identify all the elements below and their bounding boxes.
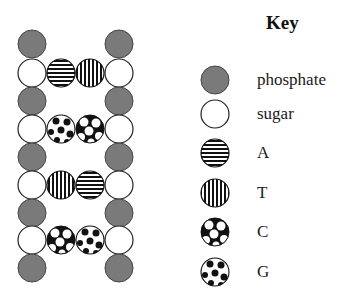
dna-row-7 [18,199,133,227]
phosphate-left-icon [18,199,46,227]
phosphate-right-icon [105,87,133,115]
sugar-left-icon [18,226,46,254]
sugar-right-icon [105,115,133,143]
sugar-left-icon [18,59,46,87]
key-sugar-icon [201,100,229,128]
sugar-right-icon [105,59,133,87]
base-cytosine-icon [76,115,104,146]
dna-row-6 [18,171,133,199]
dna-row-2 [18,59,133,87]
dna-row-3 [18,87,133,115]
phosphate-left-icon [18,254,46,282]
base-adenine-icon [47,59,75,87]
base-guanine-icon [76,226,104,256]
key-label-adenine: A [257,143,269,163]
key-label-guanine: G [257,262,269,282]
base-guanine-icon [47,115,75,145]
phosphate-right-icon [105,254,133,282]
key-t-icon [201,179,229,207]
key-label-thymine: T [257,183,267,203]
phosphate-right-icon [105,30,133,58]
key-label-phosphate: phosphate [257,70,326,90]
phosphate-left-icon [18,30,46,58]
key-phosphate-icon [201,66,229,94]
phosphate-left-icon [18,87,46,115]
dna-row-9 [18,254,133,282]
sugar-left-icon [18,171,46,199]
sugar-left-icon [18,115,46,143]
phosphate-right-icon [105,199,133,227]
key-g-icon [201,258,229,288]
base-adenine-icon [76,171,104,199]
key-a-icon [201,139,229,167]
sugar-right-icon [105,171,133,199]
key-label-cytosine: C [257,222,268,242]
dna-row-8 [18,226,133,257]
base-thymine-icon [47,171,75,199]
sugar-right-icon [105,226,133,254]
phosphate-right-icon [105,143,133,171]
dna-ladder-diagram [0,0,160,303]
dna-row-1 [18,30,133,58]
base-thymine-icon [76,59,104,87]
dna-row-5 [18,143,133,171]
base-cytosine-icon [47,226,75,257]
dna-row-4 [18,115,133,146]
phosphate-left-icon [18,143,46,171]
key-title: Key [266,12,299,34]
key-c-icon [201,218,229,249]
key-label-sugar: sugar [257,104,294,124]
